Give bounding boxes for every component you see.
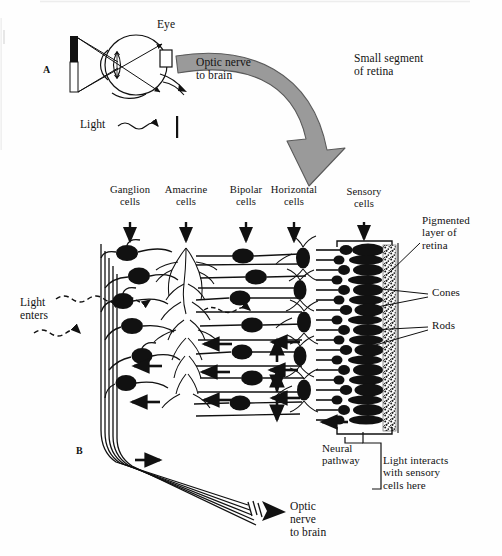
panel-letter-a: A	[43, 64, 50, 75]
panel-letter-b: B	[76, 445, 83, 456]
label-optic-nerve-to-brain-b: Optic nerve to brain	[290, 500, 326, 539]
label-sensory-cells: Sensory cells	[347, 186, 382, 210]
light-wavy-arrow-a	[118, 123, 158, 129]
label-cones: Cones	[432, 286, 460, 298]
label-bipolar-cells: Bipolar cells	[230, 184, 262, 208]
amacrine-cells	[154, 248, 218, 408]
label-light-enters: Light enters	[20, 296, 48, 322]
label-horizontal-cells: Horizontal cells	[271, 184, 317, 208]
horizontal-cells	[276, 235, 318, 412]
label-neural-pathway: Neural pathway	[322, 442, 360, 467]
retina-patch	[160, 50, 172, 67]
small-segment-of-retina-label: Small segment of retina	[354, 52, 423, 78]
label-pigmented-layer: Pigmented layer of retina	[422, 214, 470, 251]
column-label-arrows	[130, 222, 364, 241]
sensory-cells	[316, 244, 384, 425]
optic-nerve-to-brain-label-a: Optic nerve to brain	[196, 56, 251, 82]
eye-label: Eye	[157, 18, 175, 31]
eyeball-outline	[101, 35, 167, 98]
light-target-bar	[176, 116, 178, 138]
label-amacrine-cells: Amacrine cells	[165, 184, 208, 208]
label-light-interacts: Light interacts with sensory cells here	[383, 454, 448, 491]
light-label: Light	[80, 118, 105, 131]
object-bar	[70, 36, 78, 92]
panel-b-retina-segment	[34, 222, 428, 525]
label-rods: Rods	[432, 319, 455, 331]
label-ganglion-cells: Ganglion cells	[110, 184, 150, 208]
bipolar-cells	[194, 249, 306, 417]
figure-canvas: A Eye Optic nerve to brain Light Small s…	[0, 0, 502, 556]
optic-nerve-exit-arrow	[248, 501, 286, 521]
